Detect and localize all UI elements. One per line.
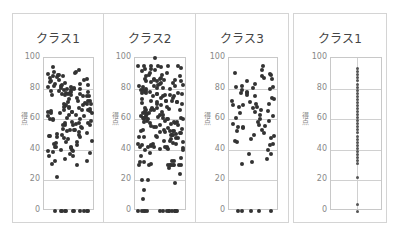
data-point [69,145,73,149]
y-tick-label: 20 [303,174,327,183]
data-point [72,128,76,132]
data-point [265,157,269,161]
data-point [236,125,240,129]
data-point [261,64,265,68]
data-point [142,135,146,139]
data-point [60,133,64,137]
data-point [167,107,171,111]
data-point [268,72,272,76]
y-tick-label: 40 [16,144,40,153]
data-point [77,68,81,72]
data-point [80,126,84,130]
data-point [161,86,165,90]
data-point [240,209,244,213]
plot-area [43,57,94,210]
data-point [65,129,69,133]
data-point [178,74,182,78]
data-point [143,148,147,152]
gridline [44,180,93,181]
plot-area [228,57,278,210]
y-tick-label: 40 [303,144,327,153]
data-point [50,93,54,97]
data-point [161,94,165,98]
data-point [179,163,183,167]
data-point [51,150,55,154]
data-point [262,131,266,135]
data-point [51,74,55,78]
data-point [173,181,177,185]
data-point [82,78,86,82]
data-point [78,82,82,86]
data-point [88,109,92,113]
data-point [75,163,79,167]
data-point [47,154,51,158]
data-point [71,154,75,158]
y-tick-label: 80 [16,83,40,92]
data-point [162,78,166,82]
data-point [356,203,359,206]
chart-title: クラス1 [294,29,386,46]
data-point [50,162,54,166]
data-point [234,116,238,120]
data-point [147,163,151,167]
data-point [155,135,159,139]
data-point [158,147,162,151]
data-point [170,99,174,103]
data-point [269,152,273,156]
chart-title: クラス2 [104,29,195,46]
data-point [181,140,185,144]
data-point [61,127,65,131]
data-point [140,101,144,105]
data-point [75,143,79,147]
data-point [159,65,163,69]
data-point [137,163,141,167]
data-point [266,109,270,113]
data-point [258,113,262,117]
data-point [179,156,183,160]
data-point [49,111,53,115]
data-point [269,136,273,140]
data-point [63,157,67,161]
data-point [64,209,68,213]
data-point [252,133,256,137]
data-point [175,100,179,104]
data-point [139,154,143,158]
data-point [147,73,151,77]
data-point [146,178,150,182]
data-point [53,159,57,163]
data-point [249,209,253,213]
data-point [53,209,57,213]
data-point [245,91,249,95]
data-point [71,209,75,213]
plot-area [330,57,382,210]
data-point [138,145,142,149]
y-tick-label: 60 [201,113,225,122]
data-point [272,97,276,101]
data-point [259,108,263,112]
data-point [233,71,237,75]
data-point [181,148,185,152]
data-point [148,90,152,94]
data-point [80,108,84,112]
data-point [262,76,266,80]
data-point [231,122,235,126]
data-point [164,99,168,103]
data-point [153,56,157,60]
y-tick-label: 0 [201,205,225,214]
data-point [253,94,257,98]
data-point [63,93,67,97]
data-point [174,209,178,213]
data-point [172,94,176,98]
data-point [149,99,153,103]
data-point [61,74,65,78]
data-point [59,148,63,152]
data-point [356,210,359,213]
data-point [58,111,62,115]
data-point [268,143,272,147]
data-point [69,93,73,97]
data-point [136,209,140,213]
data-point [156,115,160,119]
data-point [159,81,163,85]
data-point [260,68,264,72]
data-point [166,64,170,68]
